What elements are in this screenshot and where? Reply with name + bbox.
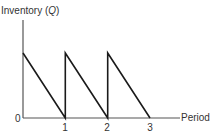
inventory-sawtooth-line — [23, 53, 150, 118]
x-tick-2: 2 — [104, 122, 110, 133]
y-axis-label: Inventory (Q) — [1, 5, 59, 16]
x-tick-1: 1 — [62, 122, 68, 133]
x-axis-label: Period — [181, 112, 210, 123]
chart: Inventory (Q) 0 1 2 3 Period — [0, 0, 216, 134]
x-tick-0: 0 — [15, 113, 21, 124]
x-tick-3: 3 — [147, 122, 153, 133]
